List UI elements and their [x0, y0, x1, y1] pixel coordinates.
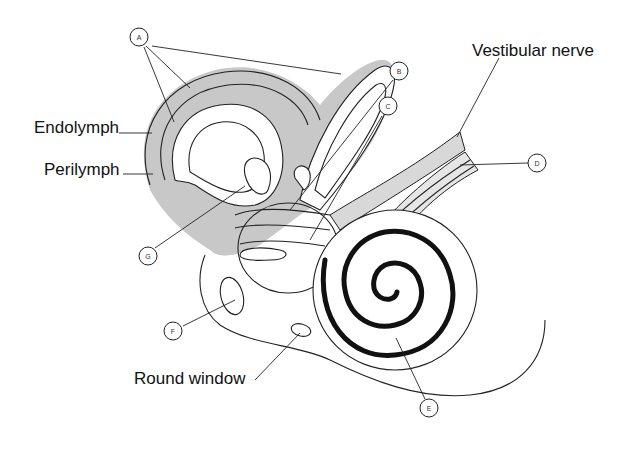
callout-c: C	[379, 97, 397, 115]
callout-e: E	[420, 399, 438, 417]
svg-text:E: E	[427, 405, 432, 412]
label-round-window: Round window	[134, 369, 246, 388]
cochlea	[313, 210, 477, 370]
svg-text:F: F	[171, 328, 175, 335]
label-vestibular-nerve: Vestibular nerve	[472, 41, 594, 60]
svg-text:D: D	[534, 160, 539, 167]
inner-ear-diagram: Endolymph Perilymph Vestibular nerve Rou…	[0, 0, 634, 450]
callout-f: F	[164, 322, 182, 340]
callout-b: B	[390, 62, 408, 80]
label-perilymph: Perilymph	[44, 160, 120, 179]
label-endolymph: Endolymph	[34, 118, 119, 137]
svg-text:G: G	[145, 253, 150, 260]
svg-text:A: A	[137, 34, 142, 41]
callout-a: A	[130, 28, 148, 46]
callout-d: D	[528, 154, 546, 172]
svg-text:C: C	[385, 103, 390, 110]
svg-text:B: B	[397, 68, 402, 75]
callout-g: G	[139, 247, 157, 265]
